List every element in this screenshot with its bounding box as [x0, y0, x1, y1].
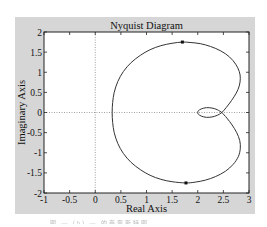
y-tick-label: 0.5 — [30, 88, 42, 98]
y-tick-label: 0 — [37, 108, 42, 118]
x-tick-label: 2.5 — [217, 195, 229, 205]
y-tick-label: 2 — [37, 28, 42, 38]
y-tick-label: -2 — [34, 189, 42, 199]
y-tick-label: -1.5 — [27, 168, 42, 178]
x-tick-label: 3 — [247, 195, 252, 205]
x-tick-label: 0 — [93, 195, 98, 205]
direction-arrow-marker — [184, 181, 187, 184]
y-tick-label: -1 — [34, 148, 42, 158]
direction-arrow-marker — [181, 41, 184, 44]
x-tick-label: 2 — [195, 195, 200, 205]
nyquist-chart: -1-0.500.511.522.53 21.510.50-0.5-1-1.5-… — [0, 0, 267, 227]
chart-title: Nyquist Diagram — [110, 20, 183, 31]
y-tick-label: 1.5 — [30, 48, 42, 58]
y-tick-label: 1 — [37, 68, 42, 78]
x-axis-title: Real Axis — [126, 203, 167, 214]
x-tick-label: 1.5 — [166, 195, 178, 205]
figure-caption: 图 — (b) — 的奈奎斯特图 — [50, 218, 220, 224]
y-axis-title: Imaginary Axis — [16, 80, 27, 145]
x-tick-label: -0.5 — [62, 195, 77, 205]
y-tick-label: -0.5 — [27, 128, 42, 138]
